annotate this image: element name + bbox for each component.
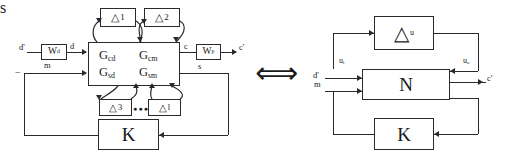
figure-canvas: △1 △2 Gcd Gcm Gsd Gsm Wd Wp △3 <box>0 0 513 164</box>
wire-uo-vertical <box>478 33 479 71</box>
u-subscript: i <box>343 60 344 65</box>
signal-label-s: s <box>198 62 201 71</box>
signal-label-minus: − <box>15 68 21 78</box>
arrowhead-delta3-to-plant <box>133 83 139 88</box>
arrowhead-into-K-right <box>434 131 439 137</box>
signal-label-c-prime: c' <box>239 43 244 52</box>
wire-s-vertical <box>478 98 479 134</box>
arrowhead-into-delta3 <box>96 95 102 100</box>
wire-K-out-horizontal <box>333 134 374 135</box>
signal-label-uo: uo <box>463 57 469 66</box>
u-subscript: o <box>467 60 469 65</box>
controller-block-K-right[interactable]: K <box>374 118 434 150</box>
N-symbol: N <box>399 75 413 94</box>
wire-s-horizontal-top <box>450 98 478 99</box>
signal-label-s-right: s <box>0 0 6 16</box>
arrowhead-uo-into-N <box>450 68 455 74</box>
signal-label-m-right: m <box>314 80 321 89</box>
equivalence-symbol: ⟺ <box>255 58 298 88</box>
plant-block-N[interactable]: N <box>362 69 450 100</box>
triangle-icon: △ <box>394 23 409 43</box>
signal-label-ui: ui <box>339 57 344 66</box>
delta-u-subscript: u <box>410 29 414 37</box>
wire-plant-to-delta3 <box>101 86 118 99</box>
arrowhead-delta1-to-plant <box>137 37 143 42</box>
arrowhead-m-into-N <box>357 88 362 94</box>
uncertainty-block-delta-u[interactable]: △u <box>374 16 434 50</box>
signal-label-d: d <box>70 42 74 51</box>
signal-label-c: c <box>184 42 188 51</box>
wire-K-out-vertical <box>333 91 334 134</box>
wire-plant-to-delta1 <box>93 21 99 42</box>
signal-label-m: m <box>44 61 51 70</box>
wire-ui-horizontal <box>333 33 374 34</box>
signal-label-cprime-right: c' <box>487 74 492 83</box>
signal-label-d-prime: d' <box>19 43 25 52</box>
arrowhead-into-delta2 <box>141 19 147 24</box>
K-symbol: K <box>397 125 411 144</box>
wire-ui-vertical <box>333 33 334 69</box>
wire-uo-horizontal-top <box>434 33 478 34</box>
arrowhead-plant-to-deltal <box>149 83 155 88</box>
arrowhead-delta2-to-plant <box>173 37 179 42</box>
arrowhead-deltal-to-plant <box>169 83 175 88</box>
arrowhead-into-delta-u <box>369 30 374 36</box>
wire-s-into-K <box>434 134 478 135</box>
arrowhead-cprime-output-right <box>478 79 483 85</box>
arrowhead-into-delta1 <box>96 18 102 23</box>
arrowhead-dprime-into-N <box>357 75 362 81</box>
